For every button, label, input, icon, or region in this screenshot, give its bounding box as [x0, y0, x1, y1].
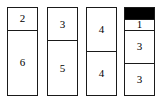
bar-segment: 3 [125, 30, 154, 63]
bar-segment-label: 3 [137, 74, 143, 85]
bar-segment: 4 [87, 8, 116, 51]
bar-segment-label: 3 [137, 41, 143, 52]
bar-segment: 1 [125, 19, 154, 31]
bar-segment-label: 4 [99, 24, 105, 35]
bar-column: 35 [47, 7, 78, 96]
bar-segment-label: 1 [137, 19, 143, 30]
bar-segment-label: 2 [20, 13, 26, 24]
bar-segment: 3 [125, 63, 154, 96]
bar-segment: 2 [8, 8, 37, 30]
bar-segment-filled [125, 8, 154, 19]
bar-column: 133 [124, 7, 155, 96]
bar-segment-label: 5 [60, 63, 66, 74]
bar-segment: 4 [87, 51, 116, 95]
bar-column: 26 [7, 7, 38, 96]
bar-segment-label: 4 [99, 68, 105, 79]
bar-segment: 5 [48, 40, 77, 95]
bar-segment-label: 3 [60, 19, 66, 30]
bar-segment: 3 [48, 8, 77, 40]
bar-column: 44 [86, 7, 117, 96]
bar-segment-label: 6 [20, 57, 26, 68]
stacked-bar-chart: 263544133 [0, 0, 156, 103]
bar-segment: 6 [8, 30, 37, 96]
